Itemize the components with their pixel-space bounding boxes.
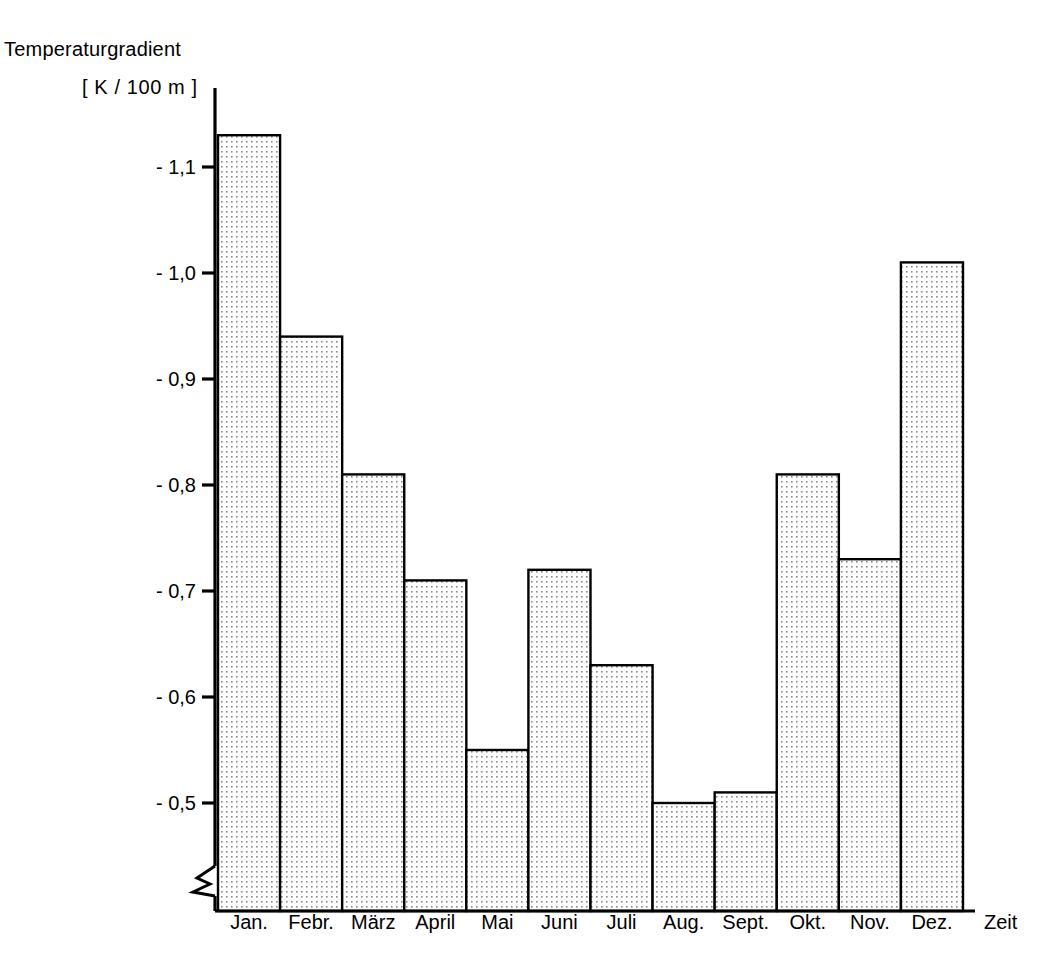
- bar-febr: [280, 337, 342, 911]
- bar-jan: [218, 135, 280, 911]
- y-tick-label: - 0,8: [110, 474, 196, 497]
- bars-layer: [218, 135, 963, 911]
- bar-juni: [528, 570, 590, 911]
- y-tick-label: - 0,7: [110, 580, 196, 603]
- bar-aug: [653, 803, 715, 911]
- bar-märz: [342, 474, 404, 911]
- y-tick-label: - 1,0: [110, 262, 196, 285]
- y-tick-label: - 1,1: [110, 156, 196, 179]
- y-tick-label: - 0,9: [110, 368, 196, 391]
- x-tick-label: Dez.: [887, 911, 977, 934]
- bar-april: [404, 580, 466, 911]
- bar-nov: [839, 559, 901, 911]
- bar-dez: [901, 262, 963, 911]
- y-tick-label: - 0,5: [110, 792, 196, 815]
- y-tick-label: - 0,6: [110, 686, 196, 709]
- bar-mai: [466, 750, 528, 911]
- bar-juli: [591, 665, 653, 911]
- chart-figure: Temperaturgradient [ K / 100 m ] - 1,1- …: [0, 0, 1044, 968]
- bar-okt: [777, 474, 839, 911]
- bar-sept: [715, 792, 777, 911]
- axis-break-symbol: [193, 866, 215, 896]
- x-axis-title: Zeit: [984, 911, 1017, 934]
